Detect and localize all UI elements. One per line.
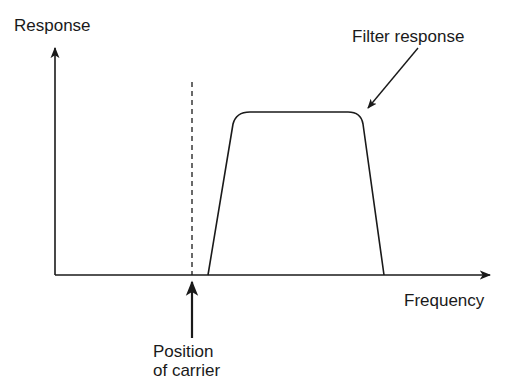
x-axis-label: Frequency [404, 291, 484, 310]
carrier-label-line2: of carrier [153, 361, 220, 380]
carrier-label-line1: Position [153, 342, 213, 361]
filter-response-label: Filter response [352, 27, 464, 46]
y-axis-label: Response [14, 16, 91, 35]
filter-response-curve [208, 112, 384, 275]
filter-response-arrow-icon [368, 48, 418, 108]
diagram-canvas [0, 0, 517, 392]
